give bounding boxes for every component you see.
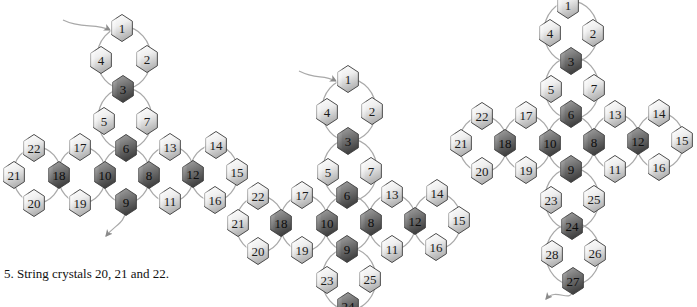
bead-facet-highlight (403, 208, 409, 229)
bead-facet-highlight (559, 156, 565, 177)
bead-7: 7 (582, 74, 604, 101)
bead-facet-highlight (447, 207, 453, 228)
bead-facet-highlight (22, 190, 28, 211)
bead-22: 22 (22, 134, 44, 161)
bead-5: 5 (316, 158, 338, 185)
bead-facet-highlight (203, 187, 209, 208)
bead-facet-highlight (360, 98, 366, 119)
bead-6: 6 (114, 134, 136, 161)
bead-3: 3 (336, 127, 358, 154)
bead-12: 12 (181, 160, 203, 187)
bead-facet-highlight (114, 189, 120, 210)
bead-9: 9 (335, 235, 357, 262)
bead-8: 8 (359, 208, 381, 235)
bead-24: 24 (560, 212, 582, 239)
bead-facet-highlight (2, 162, 8, 183)
bead-facet-highlight (358, 266, 364, 287)
bead-facet-highlight (493, 130, 499, 151)
bead-facet-highlight (336, 293, 342, 307)
bead-12: 12 (403, 207, 425, 234)
bead-4: 4 (538, 19, 560, 46)
bead-13: 13 (603, 100, 625, 127)
bead-23: 23 (315, 266, 337, 293)
bead-facet-highlight (559, 48, 565, 69)
bead-6: 6 (559, 100, 581, 127)
bead-15: 15 (670, 126, 692, 153)
bead-12: 12 (626, 127, 648, 154)
bead-20: 20 (246, 237, 268, 264)
bead-14: 14 (204, 131, 226, 158)
bead-21: 21 (2, 161, 24, 188)
bead-10: 10 (315, 209, 337, 236)
bead-2: 2 (135, 45, 157, 72)
bead-7: 7 (359, 157, 381, 184)
bead-11: 11 (380, 235, 402, 262)
bead-facet-highlight (158, 188, 164, 209)
bead-25: 25 (582, 185, 604, 212)
bead-facet-highlight (470, 103, 476, 124)
bead-facet-highlight (647, 154, 653, 175)
bead-facet-highlight (582, 186, 588, 207)
bead-3: 3 (111, 75, 133, 102)
bead-facet-highlight (181, 161, 187, 182)
bead-24: 24 (336, 292, 358, 307)
bead-facet-highlight (135, 108, 141, 129)
bead-facet-highlight (380, 236, 386, 257)
bead-26: 26 (583, 239, 605, 266)
bead-7: 7 (135, 107, 157, 134)
bead-facet-highlight (559, 101, 565, 122)
bead-1: 1 (336, 65, 358, 92)
bead-facet-highlight (335, 182, 341, 203)
bead-facet-highlight (92, 108, 98, 129)
bead-22: 22 (246, 182, 268, 209)
bead-facet-highlight (603, 156, 609, 177)
bead-19: 19 (290, 236, 312, 263)
bead-facet-highlight (335, 236, 341, 257)
bead-facet-highlight (22, 135, 28, 156)
bead-14: 14 (425, 179, 447, 206)
bead-facet-highlight (514, 102, 520, 123)
bead-3: 3 (559, 47, 581, 74)
bead-2: 2 (360, 97, 382, 124)
bead-facet-highlight (539, 76, 545, 97)
bead-1: 1 (110, 14, 132, 41)
bead-facet-highlight (225, 159, 231, 180)
bead-facet-highlight (538, 20, 544, 41)
bead-facet-highlight (583, 240, 589, 261)
bead-19: 19 (68, 189, 90, 216)
bead-15: 15 (225, 158, 247, 185)
bead-17: 17 (68, 133, 90, 160)
bead-facet-highlight (68, 134, 74, 155)
bead-facet-highlight (114, 135, 120, 156)
bead-facet-highlight (47, 162, 53, 183)
bead-facet-highlight (582, 75, 588, 96)
diagram-canvas: 1243576131417222118108121520199111612435… (0, 0, 697, 307)
bead-facet-highlight (359, 209, 365, 230)
bead-22: 22 (470, 102, 492, 129)
bead-facet-highlight (561, 268, 567, 289)
bead-18: 18 (47, 161, 69, 188)
bead-11: 11 (158, 187, 180, 214)
bead-17: 17 (514, 101, 536, 128)
bead-28: 28 (540, 240, 562, 267)
bead-8: 8 (137, 161, 159, 188)
bead-facet-highlight (204, 132, 210, 153)
bead-facet-highlight (359, 158, 365, 179)
bead-21: 21 (449, 129, 471, 156)
bead-facet-highlight (111, 76, 117, 97)
bead-21: 21 (226, 209, 248, 236)
bead-facet-highlight (110, 15, 116, 36)
bead-facet-highlight (315, 267, 321, 288)
bead-23: 23 (539, 186, 561, 213)
bead-facet-highlight (315, 210, 321, 231)
bead-10: 10 (538, 129, 560, 156)
bead-facet-highlight (556, 0, 562, 13)
bead-facet-highlight (425, 180, 431, 201)
bead-9: 9 (114, 188, 136, 215)
bead-9: 9 (559, 155, 581, 182)
bead-facet-highlight (135, 46, 141, 67)
bead-16: 16 (647, 153, 669, 180)
bead-4: 4 (89, 46, 111, 73)
bead-facet-highlight (470, 158, 476, 179)
bead-16: 16 (424, 233, 446, 260)
